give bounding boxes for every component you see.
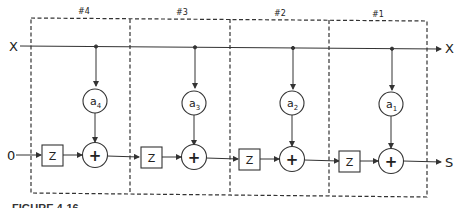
delay-block-2: Z [239,149,260,170]
taps [94,45,393,90]
delay-block-4: Z [42,145,63,166]
svg-text:+: + [89,147,102,165]
signal-path [16,155,441,162]
coef-to-adder-arrows [95,113,391,148]
systolic-array-diagram: #4 #3 #2 #1 X X a4 a3 a2 a1 0 [0,0,462,208]
adder-2: + [280,147,305,172]
zero-input-label: 0 [7,148,15,163]
coefficient-a1: a1 [379,92,403,116]
coefficient-a3: a3 [182,91,206,115]
adder-1: + [379,149,404,174]
delay-block-3: Z [141,147,162,168]
stage-label-3: #3 [176,8,188,17]
svg-text:Z: Z [246,154,254,167]
svg-text:Z: Z [49,150,57,163]
x-input-label: X [9,39,18,54]
adder-3: + [182,145,207,170]
svg-text:Z: Z [148,152,156,165]
coefficient-a2: a2 [280,91,304,115]
s-output-label: S [445,155,453,170]
stage-label-1: #1 [372,10,384,19]
svg-text:+: + [385,153,398,171]
figure-caption: FIGURE 4-16 [12,201,79,208]
stage-label-2: #2 [274,9,286,18]
coefficient-a4: a4 [83,89,107,113]
stage-label-4: #4 [78,7,90,16]
x-output-label: X [445,41,454,56]
delay-block-1: Z [339,151,360,172]
svg-text:+: + [188,149,201,167]
svg-text:+: + [286,151,299,169]
svg-text:Z: Z [346,156,354,169]
adder-4: + [83,143,108,168]
